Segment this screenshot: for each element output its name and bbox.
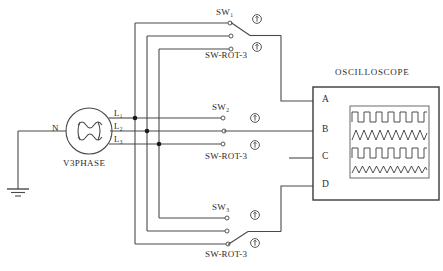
schematic-svg <box>0 0 443 271</box>
switch-label-sw-mid: SW2 <box>212 103 229 112</box>
scope-terminal-c[interactable]: C <box>322 152 329 162</box>
switch-sw-mid[interactable] <box>221 114 313 150</box>
rotary-actuator-icon <box>251 239 260 248</box>
scope-terminal-a[interactable]: A <box>322 95 329 105</box>
sw-top-actuators[interactable] <box>253 15 262 52</box>
sw-bot-contacts <box>225 216 230 246</box>
switch-sw-bot[interactable] <box>225 211 281 248</box>
switch-type-label-sw-mid: SW-ROT-3 <box>205 152 247 161</box>
switch-label-sw-bot: SW3 <box>212 203 229 212</box>
switch-type-label-sw-top: SW-ROT-3 <box>205 51 247 60</box>
phase-label-l2: L2 <box>114 122 122 131</box>
top-switch-feed-wires <box>135 23 229 49</box>
sw-bot-pole-2 <box>225 229 229 233</box>
oscilloscope-title: OSCILLOSCOPE <box>335 68 409 77</box>
three-phase-generator-icon <box>66 108 112 154</box>
phase-label-l3: L3 <box>114 135 122 144</box>
sw-mid-pole-1 <box>221 116 225 120</box>
vertical-bus-wires <box>135 23 159 244</box>
switch-sw-top[interactable] <box>228 15 281 52</box>
rotary-actuator-icon <box>253 43 262 52</box>
wire-sw-top-to-terminal-a <box>281 36 313 102</box>
sw-bot-blade <box>228 232 248 245</box>
scope-terminal-d[interactable]: D <box>322 180 329 190</box>
source-label: V3PHASE <box>63 159 105 168</box>
sw-bot-pole-1 <box>225 216 229 220</box>
wire-sw-bot-to-terminal-d <box>281 186 313 232</box>
sw-top-pole-2 <box>229 34 233 38</box>
oscilloscope-body[interactable] <box>313 87 439 200</box>
sw-mid-pole-3 <box>221 142 225 146</box>
bottom-switch-feed-wires <box>135 218 226 244</box>
earth-ground-icon <box>7 189 29 196</box>
rotary-actuator-icon <box>253 15 262 24</box>
switch-type-label-sw-bot: SW-ROT-3 <box>205 250 247 259</box>
node-l1 <box>133 116 138 121</box>
rotary-actuator-icon <box>251 141 260 150</box>
phase-label-l1: L1 <box>114 109 122 118</box>
rotary-actuator-icon <box>251 114 260 123</box>
circuit-diagram-canvas: N V3PHASE L1 L2 L3 SW1 SW-ROT-3 SW2 SW-R… <box>0 0 443 271</box>
scope-terminal-b[interactable]: B <box>322 125 329 135</box>
switch-label-sw-top: SW1 <box>216 8 233 17</box>
sw-bot-actuators[interactable] <box>251 211 260 248</box>
sw-top-blade <box>231 23 250 36</box>
ground-branch <box>18 131 66 189</box>
rotary-actuator-icon <box>251 211 260 220</box>
node-l3 <box>157 142 162 147</box>
neutral-terminal-label: N <box>52 124 59 133</box>
sw-top-contacts <box>228 21 233 51</box>
node-l2 <box>145 129 150 134</box>
